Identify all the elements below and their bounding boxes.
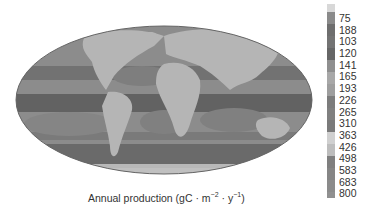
colorbar-segment	[327, 12, 335, 24]
colorbar-segment	[327, 192, 335, 198]
caption-exponent-2: −1	[233, 191, 241, 198]
colorbar-segment	[327, 120, 335, 132]
colorbar-segment	[327, 180, 335, 192]
world-map	[14, 24, 314, 176]
caption-exponent-1: −2	[211, 191, 219, 198]
colorbar-segment	[327, 108, 335, 120]
colorbar-label: 75	[339, 13, 357, 25]
colorbar-segment	[327, 36, 335, 48]
colorbar-segment	[327, 60, 335, 72]
colorbar-segment	[327, 48, 335, 60]
colorbar-label: 800	[339, 188, 357, 200]
caption-suffix: )	[241, 192, 245, 204]
colorbar-segment	[327, 168, 335, 180]
colorbar-segment	[327, 144, 335, 156]
colorbar-segment	[327, 132, 335, 144]
mollweide-map-graphic	[14, 24, 314, 176]
colorbar-segment	[327, 96, 335, 108]
caption-prefix: Annual production (gC · m	[88, 192, 211, 204]
colorbar-label: 226	[339, 95, 357, 107]
colorbar-label: 583	[339, 165, 357, 177]
colorbar-label: 120	[339, 48, 357, 60]
colorbar-segment	[327, 72, 335, 84]
colorbar-segment	[327, 84, 335, 96]
colorbar-labels: 75 188 103 120 141 165 193 226 265 310 3…	[339, 13, 357, 200]
colorbar-label: 363	[339, 130, 357, 142]
colorbar	[327, 4, 335, 210]
map-caption: Annual production (gC · m−2 · y−1)	[88, 191, 245, 204]
colorbar-segment	[327, 24, 335, 36]
colorbar-segment	[327, 156, 335, 168]
colorbar-segment	[327, 4, 335, 12]
caption-mid: · y	[219, 192, 234, 204]
